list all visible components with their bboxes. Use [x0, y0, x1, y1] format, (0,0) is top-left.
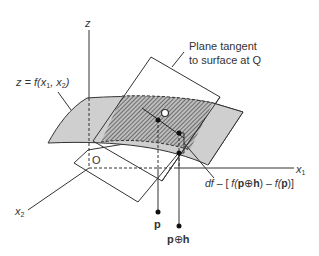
- surface-label-prefix: z = f(x: [16, 76, 46, 88]
- point-ph-label: p⊕h: [167, 233, 189, 245]
- difference-label: df – [ f(p⊕h) – f(p)]: [205, 177, 294, 189]
- diff-close1: ) –: [260, 177, 275, 189]
- diff-close2: )]: [288, 177, 294, 189]
- plane-label-leader: [172, 52, 184, 67]
- x1-sub: 1: [302, 169, 306, 176]
- point-ph: [177, 224, 182, 229]
- ph-p: p: [167, 233, 174, 245]
- diff-oplus: ⊕: [244, 177, 253, 189]
- surface-label-suffix: ): [66, 76, 70, 88]
- point-surface-p: [156, 118, 161, 123]
- diff-dash: – [: [214, 177, 232, 189]
- plane-label-line1: Plane tangent: [189, 40, 257, 52]
- origin-label: O: [92, 154, 101, 166]
- ph-h: h: [183, 233, 190, 245]
- plane-label-line2: to surface at Q: [189, 54, 261, 66]
- point-p: [156, 210, 161, 215]
- surface-label-mid: , x: [50, 76, 62, 88]
- point-p-label: p: [154, 218, 161, 230]
- x2-axis: [28, 168, 89, 210]
- df-text: df: [205, 177, 214, 189]
- z-axis-label: z: [85, 17, 91, 29]
- point-q-marker: [162, 110, 169, 117]
- x1-axis-label: x1: [296, 163, 305, 179]
- x2-axis-label: x2: [15, 205, 24, 221]
- surface-equation-label: z = f(x1, x2): [16, 76, 69, 92]
- ph-oplus: ⊕: [174, 233, 183, 245]
- surface-label-leader: [58, 92, 71, 110]
- x2-sub: 2: [21, 211, 25, 218]
- point-plane-ph: [177, 131, 182, 136]
- point-surface-ph: [177, 151, 182, 156]
